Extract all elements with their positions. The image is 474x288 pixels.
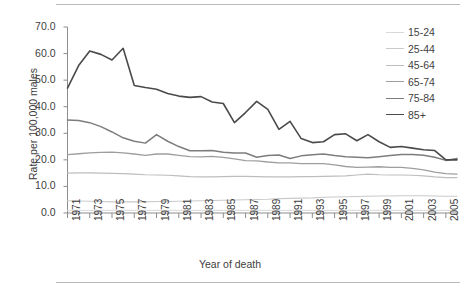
x-tick-label: 2005	[450, 199, 460, 221]
legend-item-25-44: 25-44	[386, 41, 435, 58]
x-tick-label: 1983	[205, 199, 215, 221]
x-tick-label: 1993	[316, 199, 326, 221]
legend-item-65-74: 65-74	[386, 74, 435, 91]
y-tick-label: 0.0	[16, 207, 56, 218]
legend-swatch-25-44	[386, 48, 404, 49]
x-tick-label: 1981	[183, 199, 193, 221]
y-tick-label: 50.0	[16, 74, 56, 85]
legend-label: 85+	[408, 109, 426, 121]
legend-label: 25-44	[408, 43, 435, 55]
y-tick-label: 60.0	[16, 48, 56, 59]
legend-item-15-24: 15-24	[386, 24, 435, 41]
y-tick-label: 40.0	[16, 101, 56, 112]
legend-swatch-85+	[386, 114, 404, 115]
legend-swatch-45-64	[386, 65, 404, 66]
x-tick-label: 1987	[250, 199, 260, 221]
x-tick-label: 1979	[161, 199, 171, 221]
legend-label: 65-74	[408, 76, 435, 88]
legend-item-45-64: 45-64	[386, 57, 435, 74]
figure-panel: Rate per 100,000 males Year of death 70.…	[0, 0, 474, 288]
x-tick-label: 1975	[116, 199, 126, 221]
line-chart: Rate per 100,000 males Year of death 70.…	[0, 0, 474, 288]
x-tick-label: 1999	[383, 199, 393, 221]
legend-item-75-84: 75-84	[386, 90, 435, 107]
legend-swatch-15-24	[386, 32, 404, 33]
legend-label: 15-24	[408, 26, 435, 38]
x-tick-label: 1991	[294, 199, 304, 221]
legend-swatch-75-84	[386, 98, 404, 99]
x-tick-label: 2001	[405, 199, 415, 221]
x-tick-label: 1989	[272, 199, 282, 221]
x-axis-title: Year of death	[60, 258, 400, 270]
y-tick-label: 20.0	[16, 154, 56, 165]
x-tick-label: 1985	[227, 199, 237, 221]
series-line-75-84	[68, 120, 458, 160]
y-tick-label: 10.0	[16, 180, 56, 191]
x-tick-label: 2003	[428, 199, 438, 221]
legend-label: 45-64	[408, 59, 435, 71]
series-line-45-64	[68, 173, 458, 178]
legend-swatch-65-74	[386, 81, 404, 82]
legend-label: 75-84	[408, 92, 435, 104]
x-tick-label: 1973	[94, 199, 104, 221]
chart-legend: 15-2425-4445-6465-7475-8485+	[386, 24, 435, 123]
y-tick-label: 70.0	[16, 21, 56, 32]
x-tick-label: 1995	[339, 199, 349, 221]
x-tick-label: 1997	[361, 199, 371, 221]
legend-item-85+: 85+	[386, 107, 435, 124]
y-tick-label: 30.0	[16, 127, 56, 138]
x-tick-label: 1971	[72, 199, 82, 221]
x-tick-label: 1977	[138, 199, 148, 221]
